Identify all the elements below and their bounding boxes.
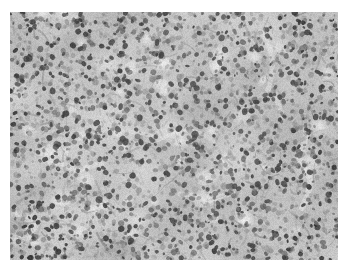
histopathology-micrograph (10, 12, 338, 260)
page: Grayscale photomicrograph of densely cel… (0, 0, 348, 273)
micrograph-frame (10, 12, 338, 260)
